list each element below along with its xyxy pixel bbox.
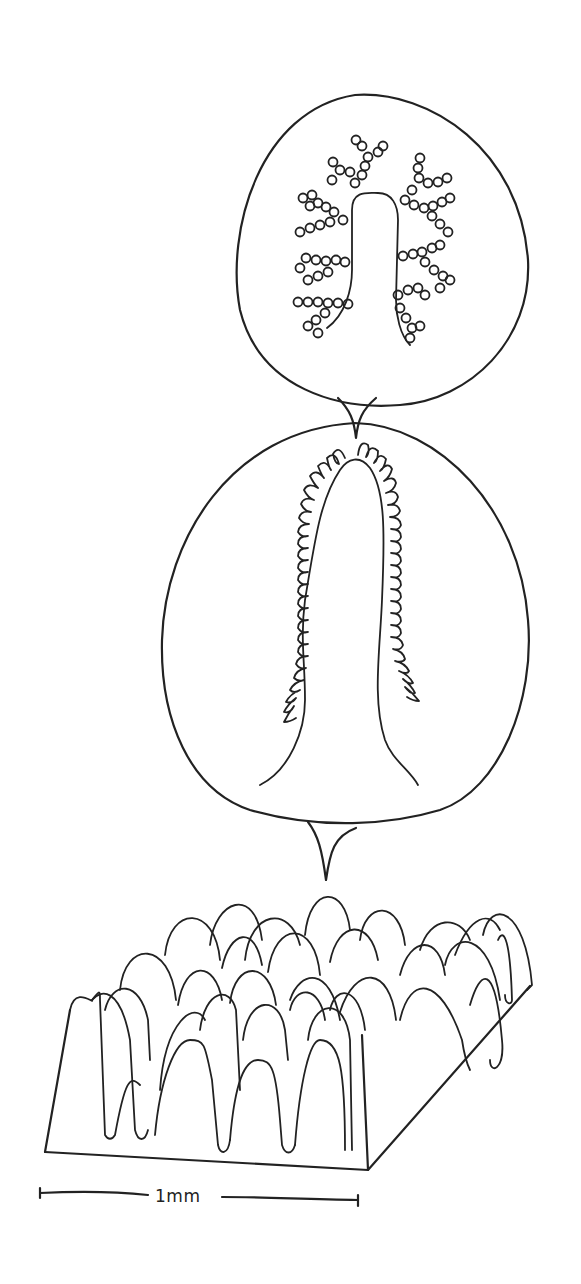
microvilli-right xyxy=(358,443,419,701)
scale-bar-label: 1mm xyxy=(152,1186,203,1206)
block-base xyxy=(45,986,530,1170)
glycocalyx-left xyxy=(294,136,388,338)
connector-bottom xyxy=(308,822,356,880)
villus-core xyxy=(260,460,418,785)
top-magnification-circle xyxy=(237,95,529,406)
microvillus-body xyxy=(327,193,410,345)
glycocalyx-right xyxy=(394,154,455,343)
villi-surface-block xyxy=(45,897,532,1170)
microvilli-left xyxy=(284,450,345,722)
middle-magnification-egg xyxy=(162,423,529,823)
diagram-canvas xyxy=(0,0,581,1284)
